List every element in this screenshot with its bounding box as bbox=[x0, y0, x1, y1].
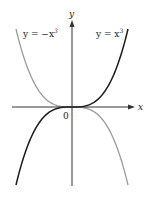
cubic-graph: x y 0 y = −x3 y = x3 bbox=[0, 0, 155, 208]
origin-label: 0 bbox=[63, 111, 69, 121]
x-axis-label: x bbox=[138, 102, 143, 112]
curve-neg-label: y = −x3 bbox=[22, 27, 58, 39]
y-axis-arrow-icon bbox=[70, 20, 75, 27]
curve-pos-label: y = x3 bbox=[95, 27, 123, 39]
y-axis-label: y bbox=[68, 9, 75, 19]
x-axis-arrow-icon bbox=[128, 105, 135, 110]
